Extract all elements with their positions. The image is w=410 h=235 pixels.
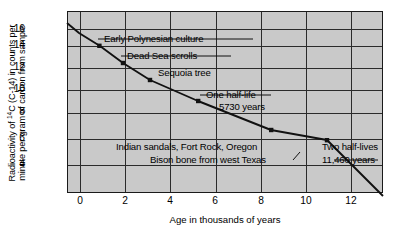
annotation-two-half-lives-years: 11,460 years [322,154,375,166]
y-tick-label-4: 4 [0,159,25,169]
gridline-y-6 [68,139,382,140]
x-tick-label-10: 10 [286,196,326,206]
y-tick-label-10: 10 [0,84,25,94]
gridline-y-8 [68,113,382,114]
gridline-y-14 [68,46,382,47]
y-tick-label-6: 6 [0,133,25,143]
y-tick-label-8: 8 [0,107,25,117]
x-tick-label-0: 0 [60,196,100,206]
x-tick-label-4: 4 [150,196,190,206]
gridline-y-12 [68,68,382,69]
y-tick-label-16: 16 [0,24,25,34]
x-axis-label: Age in thousands of years [67,214,383,225]
x-tick-label-12: 12 [331,196,371,206]
annotation-bison-bone: Bison bone from west Texas [150,154,266,166]
annotation-dead-sea-scrolls: Dead Sea scrolls [127,50,197,62]
annotation-indian-sandals: Indian sandals, Fort Rock, Oregon [116,141,257,153]
x-tick-label-8: 8 [241,196,281,206]
annotation-early-polynesian-culture: Early Polynesian culture [104,33,203,45]
annotation-one-half-life: One half-life [206,89,256,101]
y-tick-label-14: 14 [0,40,25,50]
chart-figure: Radioactivity of 14C (C-14) in counts pe… [0,0,410,235]
annotation-one-half-life-years: 5730 years [219,101,265,113]
gridline-y-16 [68,29,382,30]
annotation-two-half-lives: Two half-lives [322,141,378,153]
y-tick-label-12: 12 [0,62,25,72]
x-tick-label-2: 2 [105,196,145,206]
annotation-sequoia-tree: Sequoia tree [158,67,211,79]
x-tick-label-6: 6 [195,196,235,206]
